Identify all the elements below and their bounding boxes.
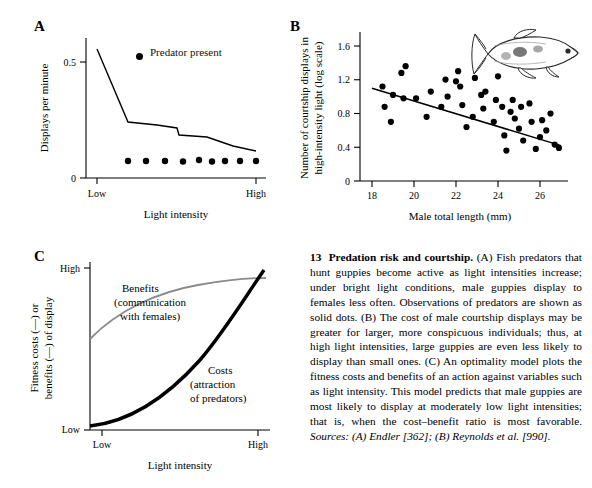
figure-caption-body: (A) Fish predators that hunt guppies bec… — [310, 251, 582, 427]
panel-b-xlabel: Male total length (mm) — [409, 210, 512, 223]
panel-c-xlabel: Light intensity — [148, 459, 213, 471]
figure-caption: 13 Predation risk and courtship. (A) Fis… — [310, 250, 582, 444]
guppy-illustration — [472, 29, 578, 78]
figure-title: Predation risk and courtship. — [329, 251, 473, 263]
panel-b-ylabel-line1: Number of courtship displays in — [298, 37, 310, 179]
panel-c-benefits-label-1: Benefits — [122, 282, 159, 294]
panel-b-ytick-0: 0 — [345, 176, 350, 187]
panel-b-ytick-16: 1.6 — [338, 41, 351, 52]
panel-b-xtick-22: 22 — [451, 190, 461, 201]
figure-number: 13 — [310, 251, 321, 263]
panel-a-letter: A — [34, 18, 45, 35]
figure-sources-label: Sources: — [310, 430, 349, 442]
panel-b-xtick-20: 20 — [409, 190, 419, 201]
figure-sources-body: (A) Endler [362]; (B) Reynolds et al. [9… — [349, 430, 550, 442]
panel-c-costs-label-3: of predators) — [190, 392, 247, 405]
panel-c-costs-label-1: Costs — [208, 364, 232, 376]
panel-a-ytick-0: 0 — [71, 173, 76, 184]
panel-b-xtick-26: 26 — [535, 190, 545, 201]
legend-dot-icon — [136, 53, 143, 60]
panel-c: C Low High Low High Light intensity Fitn… — [18, 248, 303, 480]
panel-c-ytick-high: High — [60, 263, 80, 274]
panel-a-predator-dots — [125, 157, 259, 165]
panel-b: B 0 0.4 0.8 1.2 1.6 18 20 22 24 26 Mal — [288, 18, 588, 233]
panel-b-scatter-points — [379, 63, 562, 154]
panel-a-xtick-low: Low — [88, 188, 107, 199]
panel-c-ytick-low: Low — [62, 424, 81, 435]
panel-a-ylabel: Displays per minute — [38, 64, 50, 153]
panel-c-xtick-high: High — [248, 439, 268, 450]
panel-b-chart: 0 0.4 0.8 1.2 1.6 18 20 22 24 26 Male to… — [288, 18, 588, 233]
panel-c-chart: Low High Low High Light intensity Fitnes… — [18, 248, 303, 480]
panel-b-xtick-24: 24 — [493, 190, 503, 201]
panel-c-xtick-low: Low — [93, 439, 112, 450]
panel-a-ytick-05: 0.5 — [64, 57, 77, 68]
panel-b-letter: B — [290, 18, 300, 35]
panel-a-display-line — [97, 49, 256, 151]
panel-b-ytick-08: 0.8 — [338, 108, 351, 119]
panel-c-benefits-label-3: with females) — [120, 310, 181, 323]
panel-c-benefits-label-2: (communication — [114, 296, 187, 309]
panel-c-ylabel-line2: benefits (—) of display — [42, 296, 55, 399]
panel-a-xtick-high: High — [246, 188, 266, 199]
panel-a-xlabel: Light intensity — [144, 208, 209, 220]
panel-b-ytick-04: 0.4 — [338, 142, 351, 153]
panel-b-ylabel-line2: high-intensity light (log scale) — [312, 41, 325, 174]
panel-b-trend-line — [372, 88, 561, 145]
panel-b-ytick-12: 1.2 — [338, 74, 351, 85]
panel-c-costs-label-2: (attraction — [190, 378, 236, 391]
panel-c-letter: C — [34, 248, 45, 265]
panel-b-xtick-18: 18 — [367, 190, 377, 201]
panel-c-ylabel-line1: Fitness costs (—) or — [28, 303, 41, 392]
legend-label-predator-present: Predator present — [150, 46, 222, 58]
panel-a: A Predator present 0 0.5 Low High Light … — [18, 18, 288, 233]
